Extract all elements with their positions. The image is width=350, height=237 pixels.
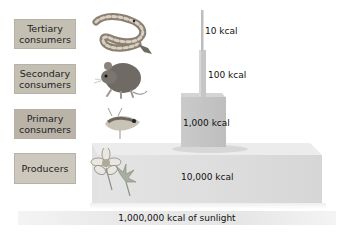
energy-pyramid-blocks [0,0,350,237]
flower-icon [90,148,140,198]
energy-label-tertiary: 10 kcal [205,26,238,36]
grasshopper-icon [100,106,145,140]
energy-label-primary: 1,000 kcal [183,118,230,128]
energy-label-secondary: 100 kcal [208,70,246,80]
producers-block-shadow [90,203,326,209]
energy-label-producers: 10,000 kcal [181,172,234,182]
rattlesnake-icon [90,12,158,57]
sunlight-bar: 1,000,000 kcal of sunlight [18,211,336,225]
mouse-icon [93,58,148,100]
sunlight-label: 1,000,000 kcal of sunlight [118,213,235,223]
